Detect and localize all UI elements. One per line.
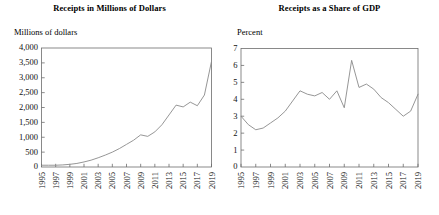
y-tick-label: 0 <box>34 161 38 171</box>
x-tick-label: 1997 <box>51 172 61 189</box>
x-tick-label: 2013 <box>369 172 379 189</box>
y-tick-label: 1 <box>233 145 237 155</box>
x-tick-label: 2003 <box>295 172 305 189</box>
y-tick-label: 6 <box>233 60 237 70</box>
x-tick-label: 2017 <box>398 172 408 189</box>
y-tick-label: 1,500 <box>19 117 38 127</box>
x-tick-label: 2007 <box>325 172 335 189</box>
x-tick-label: 1999 <box>65 172 75 189</box>
y-tick-label: 3,000 <box>19 72 38 82</box>
two-panel-line-chart-figure: Receipts in Millions of Dollars Millions… <box>0 0 439 215</box>
x-tick-label: 2011 <box>150 172 160 189</box>
data-series-line <box>241 60 418 129</box>
x-tick-label: 2005 <box>107 172 117 189</box>
y-tick-label: 7 <box>233 43 237 53</box>
panel-receipts-millions: Receipts in Millions of Dollars Millions… <box>0 0 219 215</box>
x-tick-label: 2005 <box>310 172 320 189</box>
x-tick-label: 2009 <box>339 172 349 189</box>
y-tick-label: 2,000 <box>19 102 38 112</box>
data-series-line <box>42 61 212 165</box>
x-tick-label: 2009 <box>136 172 146 189</box>
y-tick-label: 0 <box>233 161 237 171</box>
y-tick-label: 3,500 <box>19 57 38 67</box>
y-tick-label: 4,000 <box>19 42 38 52</box>
x-tick-label: 2015 <box>178 172 188 189</box>
x-tick-label: 2001 <box>280 172 290 189</box>
y-tick-label: 5 <box>233 77 237 87</box>
x-tick-label: 2017 <box>192 172 202 189</box>
plot-area-receipts-millions: 05001,0001,5002,0002,5003,0003,5004,0001… <box>0 0 219 215</box>
x-tick-label: 1997 <box>251 172 261 189</box>
x-tick-label: 1995 <box>37 172 47 189</box>
x-tick-label: 2015 <box>384 172 394 189</box>
x-tick-label: 1995 <box>236 172 246 189</box>
x-tick-label: 2013 <box>164 172 174 189</box>
y-tick-label: 2 <box>233 128 237 138</box>
x-tick-label: 2019 <box>413 172 423 189</box>
x-tick-label: 1999 <box>266 172 276 189</box>
x-tick-label: 2007 <box>122 172 132 189</box>
panel-receipts-share-gdp: Receipts as a Share of GDP Percent 01234… <box>220 0 439 215</box>
x-tick-label: 2011 <box>354 172 364 189</box>
y-tick-label: 2,500 <box>19 87 38 97</box>
y-tick-label: 4 <box>233 94 238 104</box>
plot-area-receipts-share-gdp: 0123456719951997199920012003200520072009… <box>220 0 439 215</box>
x-tick-label: 2003 <box>93 172 103 189</box>
y-tick-label: 1,000 <box>19 132 38 142</box>
x-tick-label: 2001 <box>79 172 89 189</box>
x-tick-label: 2019 <box>207 172 217 189</box>
y-tick-label: 3 <box>233 111 237 121</box>
y-tick-label: 500 <box>25 147 38 157</box>
